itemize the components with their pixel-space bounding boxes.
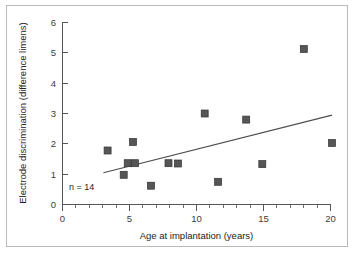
data-point[interactable] [215, 178, 222, 185]
y-tick-label-0: 0 [51, 199, 56, 210]
data-point[interactable] [329, 140, 336, 147]
scatter-plot-figure: 0 1 2 3 4 5 6 [0, 0, 360, 262]
y-axis-tick-labels: 0 1 2 3 4 5 6 [51, 17, 56, 210]
data-point[interactable] [259, 161, 266, 168]
data-point[interactable] [130, 139, 137, 146]
data-point[interactable] [124, 160, 131, 167]
y-tick-label-3: 3 [51, 108, 56, 119]
data-point[interactable] [120, 171, 127, 178]
data-points-group [104, 46, 335, 190]
data-point[interactable] [300, 46, 307, 53]
x-axis-title: Age at implantation (years) [140, 230, 254, 241]
data-point[interactable] [132, 160, 139, 167]
scatter-chart-canvas: 0 1 2 3 4 5 6 [0, 0, 360, 262]
x-tick-label-0: 0 [60, 213, 65, 224]
y-axis-ticks [63, 23, 68, 205]
x-axis-tick-labels: 0 5 10 15 20 [60, 213, 336, 224]
y-tick-label-1: 1 [51, 169, 56, 180]
data-point[interactable] [174, 160, 181, 167]
sample-size-annotation: n = 14 [69, 182, 94, 192]
x-tick-label-10: 10 [191, 213, 202, 224]
data-point[interactable] [165, 160, 172, 167]
data-point[interactable] [243, 116, 250, 123]
x-tick-label-15: 15 [258, 213, 269, 224]
data-point[interactable] [148, 182, 155, 189]
y-tick-label-2: 2 [51, 138, 56, 149]
x-tick-label-5: 5 [127, 213, 132, 224]
x-tick-label-20: 20 [325, 213, 336, 224]
y-axis-title: Electrode discrimination (difference lim… [17, 22, 28, 203]
y-tick-label-4: 4 [51, 78, 56, 89]
y-tick-label-5: 5 [51, 47, 56, 58]
y-tick-label-6: 6 [51, 17, 56, 28]
data-point[interactable] [201, 110, 208, 117]
data-point[interactable] [104, 147, 111, 154]
